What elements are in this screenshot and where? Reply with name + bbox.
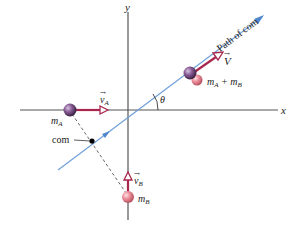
v-a-vector-mark: → bbox=[100, 89, 106, 97]
v-b-vector-mark: → bbox=[134, 170, 140, 178]
ball-a bbox=[64, 104, 77, 117]
com-dot bbox=[89, 138, 94, 143]
combined-ball-a bbox=[184, 67, 197, 80]
ball-b bbox=[122, 191, 134, 203]
v-a-arrowhead-icon bbox=[100, 106, 108, 114]
m-a-label: mA bbox=[51, 115, 63, 128]
x-axis-label: x bbox=[280, 104, 286, 116]
com-leader bbox=[74, 140, 90, 141]
m-b-label: mB bbox=[138, 193, 150, 206]
v-b-arrowhead-icon bbox=[124, 172, 132, 180]
y-axis-label: y bbox=[124, 1, 130, 13]
theta-label: θ bbox=[160, 94, 165, 105]
collision-diagram: x y Path of com com vA → mA vB → mB V → … bbox=[0, 0, 292, 230]
v-combined-vector-mark: → bbox=[224, 50, 230, 58]
combined-mass-label: mA + mB bbox=[207, 76, 243, 89]
path-midarrow-icon bbox=[102, 131, 110, 138]
path-of-com-label: Path of com bbox=[215, 16, 260, 54]
com-label: com bbox=[52, 134, 69, 145]
